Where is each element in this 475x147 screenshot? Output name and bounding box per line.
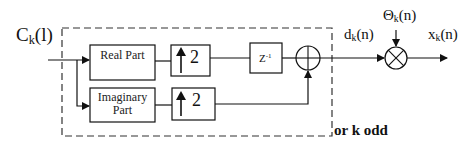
upsample-factor-top: 2 bbox=[190, 47, 199, 68]
theta-signal-label: Θk(n) bbox=[383, 7, 416, 24]
multiplier-icon bbox=[385, 47, 407, 69]
input-label: Ck(l) bbox=[16, 24, 53, 48]
adder-icon bbox=[296, 46, 320, 70]
delay-label: Z-1 bbox=[259, 52, 272, 64]
imaginary-part-label: Imaginary Part bbox=[90, 91, 155, 117]
x-signal-label: xk(n) bbox=[428, 26, 458, 43]
real-part-label: Real Part bbox=[90, 49, 155, 62]
annotation-label: or k odd bbox=[334, 122, 388, 139]
d-signal-label: dk(n) bbox=[344, 26, 374, 43]
upsample-factor-bottom: 2 bbox=[192, 90, 201, 111]
branch-line bbox=[77, 60, 89, 106]
